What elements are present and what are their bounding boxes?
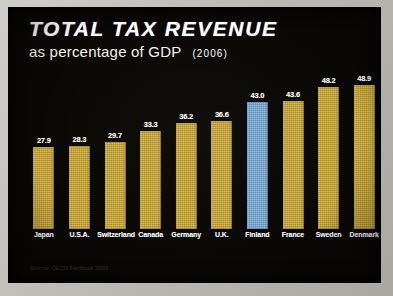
bar-value-label: 28.3	[72, 135, 86, 144]
bar-rect[interactable]	[354, 85, 375, 229]
category-label-u-s-a: U.S.A.	[62, 231, 98, 238]
category-label-sweden: Sweden	[311, 231, 347, 238]
bar-rect[interactable]	[283, 101, 304, 229]
bar-value-label: 36.2	[179, 112, 193, 121]
title-block: TOTAL TAX REVENUE as percentage of GDP (…	[29, 18, 369, 60]
bar-rect[interactable]	[33, 147, 54, 229]
bar-rect[interactable]	[247, 102, 268, 229]
subtitle-row: as percentage of GDP (2006)	[29, 43, 369, 60]
bar-sweden[interactable]: 48.2	[318, 65, 339, 229]
bar-japan[interactable]: 27.9	[33, 65, 54, 229]
bar-rect[interactable]	[211, 121, 232, 229]
category-label-switzerland: Switzerland	[97, 231, 133, 238]
category-label-u-k: U.K.	[204, 231, 240, 238]
bar-rect[interactable]	[69, 146, 90, 229]
category-label-germany: Germany	[168, 231, 204, 238]
bar-rect[interactable]	[176, 123, 197, 230]
bar-value-label: 29.7	[108, 131, 122, 140]
chart-subtitle: as percentage of GDP	[29, 43, 181, 60]
category-label-france: France	[275, 231, 311, 238]
category-label-finland: Finland	[240, 231, 276, 238]
bar-value-label: 43.0	[250, 91, 264, 100]
bar-rect[interactable]	[140, 131, 161, 229]
bar-value-label: 48.2	[322, 76, 336, 85]
category-label-denmark: Denmark	[346, 231, 381, 238]
bar-denmark[interactable]: 48.9	[354, 65, 375, 229]
bar-rect[interactable]	[318, 87, 339, 229]
category-axis: JapanU.S.A.SwitzerlandCanadaGermanyU.K.F…	[26, 231, 381, 245]
bar-u-k[interactable]: 36.6	[211, 65, 232, 229]
bar-chart-plot-area: 27.928.329.733.336.236.643.043.648.248.9	[26, 65, 381, 229]
chart-title: TOTAL TAX REVENUE	[29, 18, 369, 40]
bar-germany[interactable]: 36.2	[176, 65, 197, 229]
bar-rect[interactable]	[105, 142, 126, 229]
category-label-japan: Japan	[26, 231, 62, 238]
bar-value-label: 33.3	[144, 120, 158, 129]
bar-value-label: 43.6	[286, 90, 300, 99]
source-note: Source: OECD Factbook 2009	[30, 265, 108, 271]
bar-u-s-a[interactable]: 28.3	[69, 65, 90, 229]
bar-value-label: 36.6	[215, 110, 229, 119]
slide-photo-frame: TOTAL TAX REVENUE as percentage of GDP (…	[0, 0, 393, 296]
bar-value-label: 48.9	[357, 74, 371, 83]
chart-slide: TOTAL TAX REVENUE as percentage of GDP (…	[8, 7, 381, 283]
chart-year-annotation: (2006)	[192, 48, 228, 59]
bar-value-label: 27.9	[37, 136, 51, 145]
bar-canada[interactable]: 33.3	[140, 65, 161, 229]
category-label-canada: Canada	[133, 231, 169, 238]
bar-switzerland[interactable]: 29.7	[105, 65, 126, 229]
bar-finland[interactable]: 43.0	[247, 65, 268, 229]
bar-france[interactable]: 43.6	[283, 65, 304, 229]
